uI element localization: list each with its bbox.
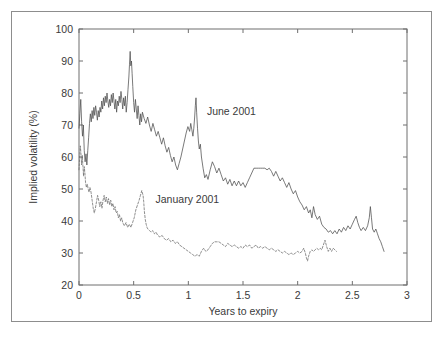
y-tick-label: 50	[61, 183, 73, 195]
series-annotation: June 2001	[207, 105, 256, 117]
x-axis-title: Years to expiry	[208, 305, 278, 317]
series-group	[79, 51, 384, 261]
y-tick-label: 70	[61, 119, 73, 131]
y-tick-label: 30	[61, 247, 73, 259]
x-tick-label: 1	[185, 289, 191, 301]
y-tick-label: 90	[61, 55, 73, 67]
x-tick-label: 2	[295, 289, 301, 301]
x-tick-label: 3	[404, 289, 410, 301]
x-tick-label: 2.5	[345, 289, 360, 301]
x-tick-label: 0	[76, 289, 82, 301]
y-tick-label: 20	[61, 279, 73, 291]
y-tick-label: 60	[61, 151, 73, 163]
series-line-1	[79, 51, 384, 251]
x-tick-label: 0.5	[126, 289, 141, 301]
y-tick-label: 40	[61, 215, 73, 227]
y-axis-title: Implied volatility (%)	[27, 110, 39, 203]
figure-container: 00.511.522.532030405060708090100June 200…	[0, 0, 444, 343]
y-tick-label: 80	[61, 87, 73, 99]
series-annotation: January 2001	[156, 193, 220, 205]
x-tick-label: 1.5	[236, 289, 251, 301]
y-tick-label: 100	[55, 23, 73, 35]
axes-group	[79, 29, 407, 285]
implied-volatility-chart: 00.511.522.532030405060708090100June 200…	[0, 0, 444, 343]
caption-sliver	[12, 337, 162, 342]
